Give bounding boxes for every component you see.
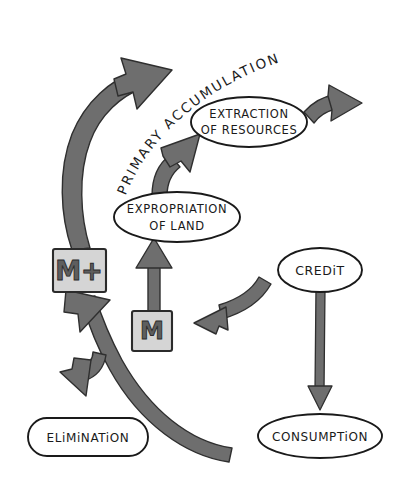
node-elimination[interactable]: ELiMiNATiON: [28, 418, 148, 456]
node-extraction-line1: EXTRACTION: [209, 107, 288, 121]
edge-extraction-to-output: [304, 85, 362, 123]
diagram-canvas: EXTRACTION OF RESOURCES EXPROPRIATION OF…: [0, 0, 404, 484]
node-extraction[interactable]: EXTRACTION OF RESOURCES: [191, 97, 307, 147]
node-credit[interactable]: CREDiT: [278, 248, 362, 292]
node-consumption-label: CONSUMPTiON: [272, 430, 368, 444]
node-expropriation-line2: OF LAND: [149, 219, 205, 233]
edge-credit-to-m: [194, 277, 271, 334]
edge-m-to-expropriation: [136, 238, 172, 312]
diagram-svg: EXTRACTION OF RESOURCES EXPROPRIATION OF…: [0, 0, 404, 484]
node-m[interactable]: M: [132, 311, 172, 351]
node-m-plus[interactable]: M+: [53, 249, 106, 292]
node-elimination-label: ELiMiNATiON: [47, 431, 130, 445]
node-expropriation[interactable]: EXPROPRIATION OF LAND: [114, 192, 240, 242]
edge-mplus-branch-to-elimination: [60, 352, 106, 396]
node-consumption[interactable]: CONSUMPTiON: [258, 414, 382, 458]
edge-credit-to-consumption: [308, 288, 332, 410]
node-expropriation-line1: EXPROPRIATION: [127, 202, 227, 216]
node-credit-label: CREDiT: [295, 263, 345, 278]
node-extraction-line2: OF RESOURCES: [201, 123, 298, 137]
node-m-label: M: [140, 317, 164, 345]
node-m-plus-label: M+: [55, 256, 103, 286]
